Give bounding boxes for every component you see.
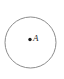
circle-outline [5,17,56,68]
geometry-figure: A [0,0,64,79]
point-dot-a [28,38,31,41]
point-label-a: A [33,34,39,43]
figure-canvas [0,0,64,79]
